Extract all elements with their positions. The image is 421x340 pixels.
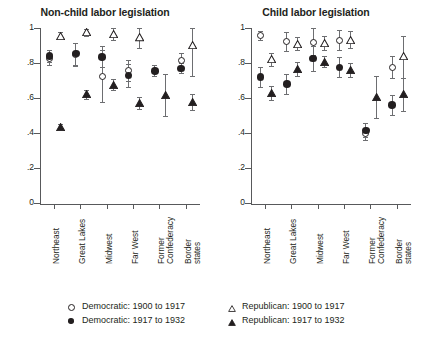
x-axis-tick-label: Great Lakes bbox=[288, 219, 298, 264]
error-bar-cap bbox=[322, 56, 327, 57]
y-axis-tick-label: .6 bbox=[10, 93, 34, 101]
error-bar-cap bbox=[374, 118, 379, 119]
error-bar-cap bbox=[137, 28, 142, 29]
x-axis-tick bbox=[107, 204, 108, 209]
error-bar-cap bbox=[100, 102, 105, 103]
error-bar-cap bbox=[337, 57, 342, 58]
error-bar-cap bbox=[190, 28, 195, 29]
error-bar-cap bbox=[348, 77, 353, 78]
error-bar-cap bbox=[137, 48, 142, 49]
error-bar-cap bbox=[374, 76, 379, 77]
data-point-filled-circle bbox=[257, 73, 265, 81]
data-point-open-circle bbox=[99, 73, 106, 80]
error-bar-cap bbox=[47, 65, 52, 66]
error-bar-cap bbox=[322, 36, 327, 37]
x-axis-tick-label: states bbox=[192, 242, 202, 264]
error-bar-cap bbox=[137, 97, 142, 98]
error-bar-cap bbox=[111, 28, 116, 29]
error-bar-cap bbox=[284, 94, 289, 95]
error-bar-cap bbox=[190, 76, 195, 77]
error-bar-cap bbox=[179, 73, 184, 74]
data-point-open-circle bbox=[336, 37, 343, 44]
error-bar-cap bbox=[258, 67, 263, 68]
error-bar-cap bbox=[100, 67, 105, 68]
x-axis-tick-label: Far West bbox=[130, 231, 140, 265]
error-bar-cap bbox=[390, 115, 395, 116]
panel-title-left: Non-child labor legislation bbox=[0, 6, 210, 18]
error-bar-cap bbox=[152, 65, 157, 66]
error-bar-cap bbox=[47, 50, 52, 51]
error-bar-cap bbox=[348, 31, 353, 32]
x-axis-tick bbox=[54, 204, 55, 209]
error-bar-cap bbox=[295, 50, 300, 51]
y-axis-tick bbox=[245, 28, 251, 29]
data-point-filled-triangle bbox=[372, 93, 381, 101]
y-axis-tick-label: 0 bbox=[221, 198, 245, 206]
y-axis-tick bbox=[245, 98, 251, 99]
y-axis-tick bbox=[34, 203, 40, 204]
error-bar-cap bbox=[284, 74, 289, 75]
panel-title-right: Child labor legislation bbox=[211, 6, 421, 18]
x-axis-tick-label: Midwest bbox=[104, 234, 114, 264]
x-axis-tick-label: Midwest bbox=[315, 234, 325, 264]
x-axis-tick-label: Far West bbox=[341, 231, 351, 265]
error-bar-cap bbox=[401, 111, 406, 112]
plot-area-right bbox=[251, 28, 409, 203]
legend-label: Democratic: 1917 to 1932 bbox=[82, 315, 185, 325]
y-axis-tick-label: 0 bbox=[10, 198, 34, 206]
error-bar-cap bbox=[152, 76, 157, 77]
panel-child-labor: Child labor legislation 1.8.6.4.20Northe… bbox=[211, 0, 421, 282]
x-axis-tick bbox=[265, 204, 266, 209]
data-point-open-triangle bbox=[267, 55, 276, 63]
error-bar-cap bbox=[284, 51, 289, 52]
legend-label: Democratic: 1900 to 1917 bbox=[82, 301, 185, 311]
data-point-filled-triangle bbox=[56, 123, 65, 131]
data-point-filled-triangle bbox=[399, 90, 408, 98]
error-bar-cap bbox=[73, 66, 78, 67]
x-axis-tick bbox=[133, 204, 134, 209]
data-point-open-triangle bbox=[135, 33, 144, 41]
y-axis-tick-label: .4 bbox=[221, 128, 245, 136]
error-bar-cap bbox=[100, 46, 105, 47]
data-point-open-circle bbox=[389, 64, 396, 71]
data-point-filled-triangle bbox=[135, 99, 144, 107]
legend-marker-open-circle bbox=[68, 304, 75, 311]
data-point-filled-circle bbox=[98, 53, 106, 61]
data-point-open-triangle bbox=[188, 41, 197, 49]
error-bar-cap bbox=[111, 79, 116, 80]
legend-label: Republican: 1917 to 1932 bbox=[242, 315, 345, 325]
error-bar-cap bbox=[295, 76, 300, 77]
y-axis-tick-label: .6 bbox=[221, 93, 245, 101]
data-point-open-triangle bbox=[293, 40, 302, 48]
error-bar-cap bbox=[179, 53, 184, 54]
error-bar-cap bbox=[390, 78, 395, 79]
x-axis-tick bbox=[80, 204, 81, 209]
error-bar-cap bbox=[84, 99, 89, 100]
x-axis-tick-label: Northeast bbox=[51, 228, 61, 264]
data-point-filled-triangle bbox=[82, 90, 91, 98]
x-axis-tick-label: Confederacy bbox=[165, 217, 175, 264]
error-bar-cap bbox=[269, 100, 274, 101]
error-bar-cap bbox=[322, 67, 327, 68]
error-bar-cap bbox=[337, 77, 342, 78]
data-point-filled-circle bbox=[151, 67, 159, 75]
error-bar-cap bbox=[311, 46, 316, 47]
error-bar-cap bbox=[348, 48, 353, 49]
error-bar-cap bbox=[258, 40, 263, 41]
error-bar-cap bbox=[295, 37, 300, 38]
error-bar-cap bbox=[401, 78, 406, 79]
error-bar-cap bbox=[190, 94, 195, 95]
y-axis-tick-label: .2 bbox=[221, 163, 245, 171]
data-point-open-triangle bbox=[82, 28, 91, 36]
error-bar-cap bbox=[137, 109, 142, 110]
data-point-open-triangle bbox=[346, 36, 355, 44]
data-point-filled-triangle bbox=[188, 98, 197, 106]
plot-area-left bbox=[40, 28, 198, 203]
y-axis-tick bbox=[34, 28, 40, 29]
error-bar-cap bbox=[337, 30, 342, 31]
x-axis-tick-label: Northeast bbox=[262, 228, 272, 264]
data-point-open-circle bbox=[283, 38, 290, 45]
error-bar-cap bbox=[111, 90, 116, 91]
error-bar-cap bbox=[269, 66, 274, 67]
y-axis-tick-label: .8 bbox=[10, 58, 34, 66]
